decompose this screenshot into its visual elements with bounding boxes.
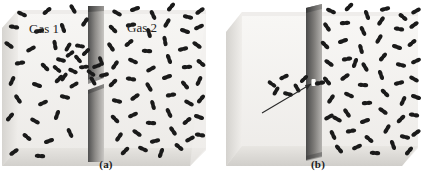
gas-2-label: Gas 2 bbox=[127, 20, 157, 36]
panel-b-effusion: Vacuum Gas Pinhole (b) bbox=[212, 0, 424, 184]
panel-b-illustration bbox=[212, 0, 424, 184]
caption-b: (b) bbox=[212, 158, 424, 170]
pinhole-opening bbox=[312, 79, 316, 86]
figure-gas-diffusion-effusion: Gas 1 Gas 2 (a) bbox=[0, 0, 424, 184]
caption-a: (a) bbox=[0, 158, 212, 170]
gas-1-label: Gas 1 bbox=[29, 21, 59, 37]
panel-a-diffusion: Gas 1 Gas 2 (a) bbox=[0, 0, 212, 184]
